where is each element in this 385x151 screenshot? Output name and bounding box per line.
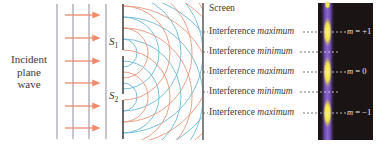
fringe-kind: maximum [257, 66, 294, 76]
screen-label: Screen [209, 3, 235, 13]
fringe-kind: minimum [257, 86, 292, 96]
slit-subscript: 2 [115, 95, 119, 104]
order-eq: = +1 [353, 26, 371, 36]
slit-label-s1: S1 [109, 35, 118, 50]
order-label-plus1: m = +1 [347, 26, 371, 36]
fringe-label-max-0: Interference maximum [209, 66, 294, 77]
fringe-label-min-lower: Interference minimum [209, 86, 293, 97]
slit-label-s2: S2 [109, 89, 118, 104]
incident-arrows [65, 13, 99, 131]
incident-plane-wave-label: Incident plane wave [2, 53, 56, 91]
fringe-kind: minimum [257, 46, 292, 56]
fringe-prefix: Interference [209, 26, 257, 36]
order-label-0: m = 0 [347, 66, 366, 76]
fringe-prefix: Interference [209, 86, 257, 96]
order-eq: = −1 [353, 107, 371, 117]
fringe-label-max-minus1: Interference maximum [209, 107, 294, 118]
fringe-label-max-plus1: Interference maximum [209, 26, 294, 37]
double-slit-diagram [0, 0, 385, 151]
incident-label-line1: Incident [2, 53, 56, 66]
fringe-prefix: Interference [209, 46, 257, 56]
incident-label-line3: wave [2, 78, 56, 91]
plane-wavefronts [57, 4, 106, 139]
fringe-kind: maximum [257, 26, 294, 36]
order-label-minus1: m = −1 [347, 107, 371, 117]
fringe-label-min-upper: Interference minimum [209, 46, 293, 57]
fringe-prefix: Interference [209, 66, 257, 76]
slit-subscript: 1 [115, 41, 119, 50]
incident-label-line2: plane [2, 66, 56, 79]
order-eq: = 0 [353, 66, 366, 76]
fringe-kind: maximum [257, 107, 294, 117]
fringe-prefix: Interference [209, 107, 257, 117]
